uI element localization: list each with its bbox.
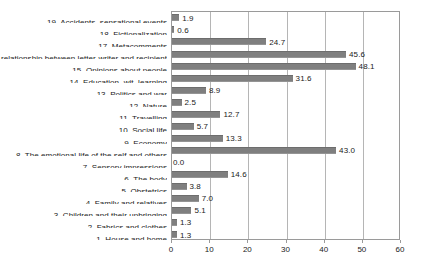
bar (172, 207, 191, 214)
bar (172, 38, 266, 45)
plot-area: 1.90.624.745.648.131.68.92.512.75.713.34… (171, 11, 400, 240)
category-label-row: 14. Education, wit, learning (0, 71, 167, 83)
bar-row: 31.6 (172, 72, 399, 84)
bar (172, 87, 206, 94)
bar-row: 45.6 (172, 48, 399, 60)
bar-row: 0.6 (172, 24, 399, 36)
x-tick-mark (362, 240, 363, 243)
bar-chart: 19. Accidents, sensational events18. Fic… (0, 0, 422, 266)
x-tick-label: 60 (396, 244, 405, 255)
category-label: 1. House and home (96, 235, 167, 240)
bar-row: 3.8 (172, 181, 399, 193)
x-tick-label: 30 (281, 244, 290, 255)
bar-row: 14.6 (172, 169, 399, 181)
category-label-row: he relationship between letter-writer an… (0, 47, 167, 59)
x-tick-label: 50 (357, 244, 366, 255)
category-axis: 19. Accidents, sensational events18. Fic… (0, 11, 169, 240)
bar-value-label: 31.6 (296, 73, 312, 84)
bar-value-label: 24.7 (269, 37, 285, 48)
bar (172, 219, 177, 226)
x-tick-label: 10 (205, 244, 214, 255)
x-tick-mark (171, 240, 172, 243)
bar-row: 1.9 (172, 12, 399, 24)
bar-row: 1.3 (172, 217, 399, 229)
category-label-row: 19. Accidents, sensational events (0, 11, 167, 23)
bar (172, 111, 220, 118)
category-label-row: 11. Travelling (0, 107, 167, 119)
category-label-row: 3. Children and their upbringing (0, 204, 167, 216)
bar (172, 195, 199, 202)
bar-value-label: 7.0 (202, 193, 213, 204)
x-tick-mark (324, 240, 325, 243)
bar-value-label: 1.9 (182, 13, 193, 24)
category-label-row: 18. Fictionalization (0, 23, 167, 35)
bar-row: 2.5 (172, 96, 399, 108)
category-label-row: 13. Politics and war (0, 83, 167, 95)
bar-value-label: 43.0 (339, 145, 355, 156)
bar (172, 135, 223, 142)
bar-value-label: 8.9 (209, 85, 220, 96)
category-label-row: 10. Social life (0, 119, 167, 131)
bar (172, 99, 182, 106)
category-label-row: 6. The body (0, 168, 167, 180)
bar-row: 12.7 (172, 108, 399, 120)
bar-value-label: 5.1 (194, 205, 205, 216)
category-label-row: 17. Metacomments (0, 35, 167, 47)
category-label-row: 5. Obstetrics (0, 180, 167, 192)
category-label-row: 15. Opinions about people (0, 59, 167, 71)
category-label-row: 2. Fabrics and clothes (0, 216, 167, 228)
x-tick-mark (400, 240, 401, 243)
x-tick-label: 20 (243, 244, 252, 255)
bar (172, 123, 194, 130)
x-tick-mark (247, 240, 248, 243)
bar (172, 75, 293, 82)
bar-value-label: 2.5 (185, 97, 196, 108)
bar-row: 24.7 (172, 36, 399, 48)
bar-value-label: 5.7 (197, 121, 208, 132)
bar-row: 5.1 (172, 205, 399, 217)
category-label-row: 4. Family and relatives (0, 192, 167, 204)
bar-row: 7.0 (172, 193, 399, 205)
bar-value-label: 13.3 (226, 133, 242, 144)
bar-value-label: 1.3 (180, 230, 191, 241)
bar-row: 43.0 (172, 145, 399, 157)
bar-value-label: 1.3 (180, 217, 191, 228)
bar (172, 231, 177, 238)
category-label-row: 9. Economy (0, 132, 167, 144)
x-tick-label: 0 (169, 244, 173, 255)
bar (172, 171, 228, 178)
bar (172, 183, 187, 190)
x-tick-mark (286, 240, 287, 243)
bar-value-label: 3.8 (190, 181, 201, 192)
bar-value-label: 0.6 (177, 25, 188, 36)
bar-row: 0.0 (172, 157, 399, 169)
bar-row: 8.9 (172, 84, 399, 96)
bar-row: 48.1 (172, 60, 399, 72)
bar (172, 63, 356, 70)
bar-row: 13.3 (172, 133, 399, 145)
x-tick-mark (209, 240, 210, 243)
category-label-row: 7. Sensory impressions (0, 156, 167, 168)
x-axis: 0102030405060 (171, 240, 400, 260)
bar-row: 5.7 (172, 120, 399, 132)
bar-value-label: 14.6 (231, 169, 247, 180)
bar-value-label: 12.7 (223, 109, 239, 120)
bar-value-label: 45.6 (349, 49, 365, 60)
category-label-row: 1. House and home (0, 228, 167, 240)
x-tick-label: 40 (319, 244, 328, 255)
bar-value-label: 48.1 (359, 61, 375, 72)
bar (172, 51, 346, 58)
category-label-row: 8. The emotional life of the self and ot… (0, 144, 167, 156)
bar-value-label: 0.0 (173, 157, 184, 168)
bar (172, 26, 174, 33)
bar (172, 14, 179, 21)
bar (172, 147, 336, 154)
category-label-row: 12. Nature (0, 95, 167, 107)
